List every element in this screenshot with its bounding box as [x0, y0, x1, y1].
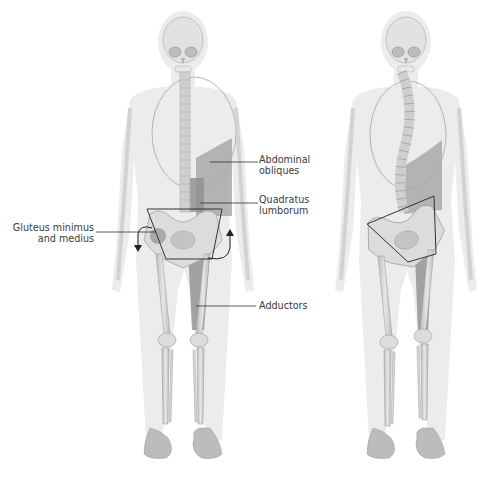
label-line: Gluteus minimus — [2, 222, 94, 233]
left-figure — [96, 11, 258, 459]
anatomy-illustration — [0, 0, 485, 488]
label-line: lumborum — [259, 205, 309, 216]
label-line: and medius — [2, 233, 94, 244]
label-adductors: Adductors — [259, 300, 308, 311]
label-line: Quadratus — [259, 194, 309, 205]
left-spine — [180, 72, 190, 212]
anatomy-diagram: Abdominal obliques Quadratus lumborum Gl… — [0, 0, 485, 488]
label-line: Adductors — [259, 300, 308, 311]
label-line: Abdominal — [259, 154, 310, 165]
label-line: obliques — [259, 165, 310, 176]
label-gluteus-minimus-medius: Gluteus minimus and medius — [2, 222, 94, 244]
left-quadratus-lumborum-muscle — [190, 178, 204, 212]
left-foot — [144, 428, 172, 459]
label-quadratus-lumborum: Quadratus lumborum — [259, 194, 309, 216]
label-abdominal-obliques: Abdominal obliques — [259, 154, 310, 176]
right-figure — [335, 11, 477, 459]
right-figure-left-foot — [367, 428, 395, 459]
